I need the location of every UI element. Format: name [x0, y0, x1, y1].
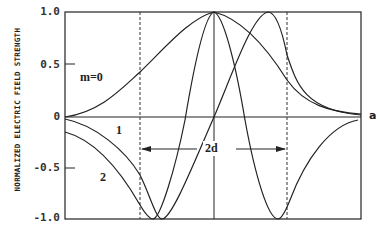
- label-mode-2: 2: [100, 170, 106, 185]
- label-2d: 2d: [203, 141, 220, 156]
- curve-m1: [65, 12, 361, 219]
- x-axis-label: a: [369, 109, 376, 122]
- curve-m2: [65, 12, 358, 219]
- curve-m0: [65, 12, 361, 117]
- plot-area: [0, 0, 380, 229]
- label-mode-1: 1: [116, 123, 122, 138]
- plot-frame: [65, 12, 361, 219]
- label-m0: m=0: [80, 70, 103, 85]
